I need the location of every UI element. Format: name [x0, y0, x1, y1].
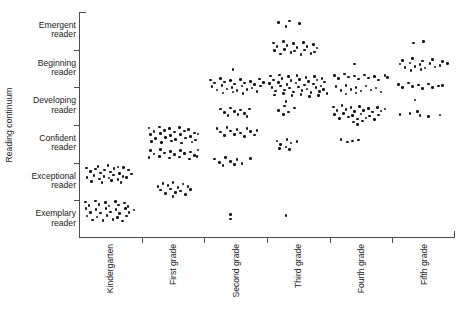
data-point — [306, 45, 309, 48]
data-point — [104, 201, 107, 204]
data-point — [239, 132, 242, 135]
data-point — [223, 134, 226, 137]
data-point — [184, 137, 187, 140]
data-point — [422, 40, 425, 43]
data-point — [157, 185, 160, 188]
data-point — [226, 126, 229, 129]
data-point — [85, 167, 88, 170]
data-point — [441, 84, 444, 87]
data-point — [281, 77, 284, 80]
data-point — [283, 89, 286, 92]
data-point — [194, 139, 197, 142]
data-point — [174, 191, 177, 194]
data-point — [189, 188, 192, 191]
data-point — [93, 174, 96, 177]
data-point — [375, 87, 378, 90]
data-point — [353, 75, 356, 78]
data-point — [159, 189, 162, 192]
data-point — [99, 172, 102, 175]
data-point — [164, 192, 167, 195]
data-point — [262, 81, 265, 84]
data-point — [196, 155, 199, 158]
data-point — [170, 140, 173, 143]
data-point — [409, 62, 412, 65]
data-point — [179, 149, 182, 152]
x-axis-right-cap — [454, 231, 455, 238]
data-point — [419, 114, 422, 117]
data-point — [249, 130, 252, 133]
data-point — [236, 128, 239, 131]
data-point — [219, 131, 222, 134]
data-point — [101, 181, 104, 184]
y-axis-tick — [74, 50, 79, 51]
data-point — [429, 62, 432, 65]
data-point — [172, 181, 175, 184]
data-point — [273, 94, 276, 97]
data-point — [283, 105, 286, 108]
data-point — [184, 193, 187, 196]
data-point — [109, 171, 112, 174]
data-point — [283, 48, 286, 51]
y-axis-title-text: Reading continuum — [4, 88, 14, 163]
data-point — [229, 218, 232, 221]
data-point — [286, 44, 289, 47]
data-point — [315, 86, 318, 89]
x-tick-label-text: Fourth grade — [356, 244, 366, 293]
data-point — [308, 95, 311, 98]
data-point — [353, 110, 356, 113]
data-point — [356, 118, 359, 121]
data-point — [88, 204, 91, 207]
data-point — [373, 75, 376, 78]
data-point — [148, 127, 151, 130]
data-point — [241, 85, 244, 88]
data-point — [268, 82, 271, 85]
data-point — [163, 129, 166, 132]
data-point — [121, 220, 124, 223]
data-point — [98, 178, 101, 181]
data-point — [103, 175, 106, 178]
data-point — [158, 155, 161, 158]
data-point — [360, 113, 363, 116]
data-point — [183, 130, 186, 133]
y-axis-tick-label: Emergentreader — [18, 21, 76, 40]
data-point — [256, 129, 259, 132]
x-tick-label-text: Kindergarten — [105, 244, 115, 293]
data-point — [317, 94, 320, 97]
data-point — [278, 74, 281, 77]
y-tick-label-line2: reader — [18, 143, 76, 153]
data-point — [351, 140, 354, 143]
data-point — [355, 92, 358, 95]
data-point — [124, 207, 127, 210]
data-point — [148, 156, 151, 159]
data-point — [350, 106, 353, 109]
data-point — [407, 82, 410, 85]
data-point — [86, 176, 89, 179]
data-point — [290, 51, 293, 54]
data-point — [246, 127, 249, 130]
data-point — [94, 200, 97, 203]
plot-area — [79, 12, 455, 238]
data-point — [197, 133, 200, 136]
data-point — [431, 58, 434, 61]
data-point — [122, 175, 125, 178]
data-point — [160, 141, 163, 144]
y-axis-tick — [74, 125, 79, 126]
data-point — [421, 60, 424, 63]
data-point — [358, 105, 361, 108]
data-point — [219, 77, 222, 80]
y-axis-tick — [74, 200, 79, 201]
data-point — [239, 109, 242, 112]
data-point — [269, 75, 272, 78]
data-point — [285, 25, 288, 28]
data-point — [239, 78, 242, 81]
y-tick-label-line2: reader — [18, 219, 76, 229]
y-tick-label-line2: reader — [18, 30, 76, 40]
data-point — [353, 63, 356, 66]
data-point — [174, 138, 177, 141]
data-point — [133, 209, 136, 212]
data-point — [226, 88, 229, 91]
y-tick-label-line2: reader — [18, 106, 76, 116]
data-point — [312, 83, 315, 86]
data-point — [216, 89, 219, 92]
data-point — [164, 136, 167, 139]
